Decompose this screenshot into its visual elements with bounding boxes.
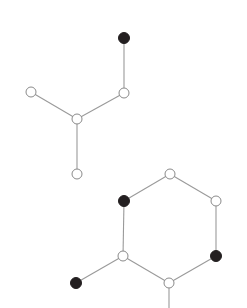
filled-atom-node: [71, 278, 82, 289]
bond-line: [77, 93, 124, 119]
open-atom-node: [211, 196, 221, 206]
filled-atom-node: [211, 251, 222, 262]
filled-atom-node: [119, 33, 130, 44]
filled-atom-node: [119, 196, 130, 207]
bond-line: [170, 174, 216, 201]
open-atom-node: [26, 87, 36, 97]
open-atom-node: [72, 114, 82, 124]
open-atom-node: [118, 251, 128, 261]
bond-line: [124, 174, 170, 201]
bond-line: [169, 256, 216, 283]
open-atom-node: [119, 88, 129, 98]
open-atom-node: [165, 169, 175, 179]
open-atom-node: [72, 169, 82, 179]
bond-line: [123, 256, 169, 283]
bond-edges: [31, 38, 216, 308]
bond-line: [76, 256, 123, 283]
molecule-diagram: [0, 0, 247, 308]
bond-line: [123, 201, 124, 256]
open-atom-node: [164, 278, 174, 288]
bond-line: [31, 92, 77, 119]
